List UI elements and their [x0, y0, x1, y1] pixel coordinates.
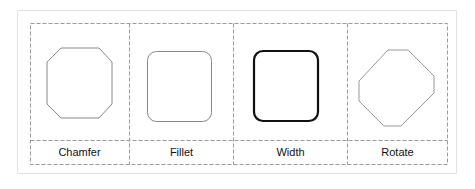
label-width: Width — [234, 141, 347, 164]
rotate-shape — [359, 50, 434, 126]
label-rotate: Rotate — [348, 141, 447, 164]
chamfer-shape — [47, 48, 112, 118]
label-chamfer: Chamfer — [30, 141, 129, 164]
label-fillet: Fillet — [130, 141, 233, 164]
fillet-shape — [148, 52, 212, 122]
width-shape — [254, 51, 318, 121]
